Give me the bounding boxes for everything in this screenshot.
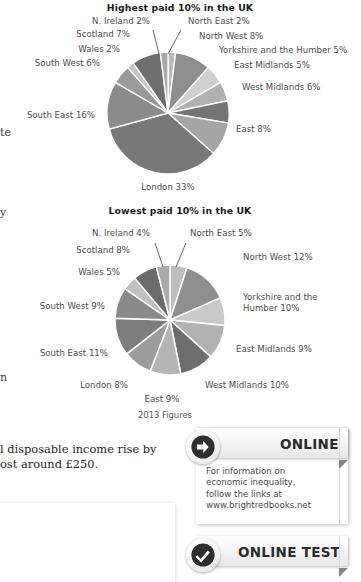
pie-svg-1 xyxy=(106,51,230,175)
edge-text-fragment-2: y xyxy=(0,206,6,219)
chart-1-label-north-east: North East 2% xyxy=(188,16,250,27)
page-canvas: Highest paid 10% in the UK xyxy=(0,0,361,582)
online-card-rule xyxy=(339,428,340,460)
chart-2-title: Lowest paid 10% in the UK xyxy=(80,205,280,216)
chart-1-title: Highest paid 10% in the UK xyxy=(80,2,280,13)
chart-2-pie xyxy=(114,264,226,376)
body-text-line-1: l disposable income rise by xyxy=(0,442,157,457)
chart-1-label-south-west: South West 6% xyxy=(0,58,100,69)
chart-1-pie xyxy=(106,51,230,175)
chart-1-label-n-ireland: N. Ireland 2% xyxy=(40,16,150,27)
chart-2-label-north-west: North West 12% xyxy=(243,252,313,263)
chart-1-label-east: East 8% xyxy=(236,124,271,135)
chart-2-label-south-west: South West 9% xyxy=(5,301,105,312)
content-panel-shadow xyxy=(0,503,175,582)
chart-1-label-east-midlands: East Midlands 5% xyxy=(234,60,310,71)
chart-2-footnote: 2013 Figures xyxy=(125,410,205,420)
chart-2-label-south-east: South East 11% xyxy=(0,348,108,359)
chart-1-label-scotland: Scotland 7% xyxy=(20,29,130,40)
chart-2-label-scotland: Scotland 8% xyxy=(25,245,130,256)
arrow-right-circle-icon[interactable] xyxy=(186,430,220,464)
chart-2-label-east-midlands: East Midlands 9% xyxy=(236,344,312,355)
online-test-rule xyxy=(339,536,340,568)
chart-1-label-west-midlands: West Midlands 6% xyxy=(242,82,321,93)
chart-2-label-west-midlands: West Midlands 10% xyxy=(205,380,289,391)
chart-2-label-london: London 8% xyxy=(48,380,128,391)
online-test-corner-fold xyxy=(339,568,348,577)
edge-text-fragment-1: te xyxy=(0,126,11,139)
online-card-rule-lower xyxy=(339,469,340,524)
check-circle-icon[interactable] xyxy=(186,538,220,572)
chart-2-label-n-ireland: N. Ireland 4% xyxy=(40,228,150,239)
chart-1-label-south-east: South East 16% xyxy=(0,110,95,121)
online-card-corner-fold xyxy=(339,460,348,469)
chart-1-label-north-west: North West 8% xyxy=(199,31,263,42)
chart-2-label-yorkshire: Yorkshire and the Humber 10% xyxy=(243,292,353,313)
chart-2-label-wales: Wales 5% xyxy=(20,267,120,278)
online-test-heading: ONLINE TEST xyxy=(238,544,340,560)
chart-1-label-wales: Wales 2% xyxy=(10,44,120,55)
body-text-line-2: ost around £250. xyxy=(0,457,98,472)
chart-2-label-north-east: North East 5% xyxy=(190,228,252,239)
edge-text-fragment-3: n xyxy=(0,371,7,384)
chart-2-label-east: East 9% xyxy=(122,394,202,405)
pie-svg-2 xyxy=(114,264,226,376)
chart-1-label-yorkshire: Yorkshire and the Humber 5% xyxy=(219,45,347,56)
online-body-text: For information on economic inequality, … xyxy=(206,466,318,512)
online-heading: ONLINE xyxy=(280,436,339,452)
chart-1-label-london: London 33% xyxy=(113,182,223,193)
